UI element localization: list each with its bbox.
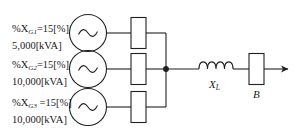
generator-2-sine-icon	[79, 66, 98, 73]
generator-2-rating-line: 10,000[kVA]	[12, 75, 69, 89]
generator-3-reactance-line: %XG3 =15[%]	[12, 96, 72, 113]
line-reactance-label: XL	[209, 78, 220, 92]
generator-2-label: %XG2=15[%] 10,000[kVA]	[12, 58, 69, 89]
generator-2-reactance-line: %XG2=15[%]	[12, 58, 69, 75]
generator-3-label: %XG3 =15[%] 10,000[kVA]	[12, 96, 72, 127]
generator-1-reactance-line: %XG1=15[%]	[12, 22, 69, 39]
line-reactance-inductor-icon	[199, 62, 233, 69]
power-system-diagram: %XG1=15[%] 5,000[kVA] %XG2=15[%] 10,000[…	[0, 0, 299, 136]
generator-1-label: %XG1=15[%] 5,000[kVA]	[12, 22, 69, 53]
generator-1-transformer-box	[131, 18, 146, 49]
load-bus-box	[249, 54, 264, 85]
generator-3-transformer-box	[131, 92, 146, 123]
generator-1-sine-icon	[79, 30, 98, 37]
generator-3-rating-line: 10,000[kVA]	[12, 113, 72, 127]
generator-3-sine-icon	[79, 104, 98, 111]
generator-1-rating-line: 5,000[kVA]	[12, 39, 69, 53]
load-bus-label: B	[253, 88, 260, 100]
generator-2-transformer-box	[131, 54, 146, 85]
